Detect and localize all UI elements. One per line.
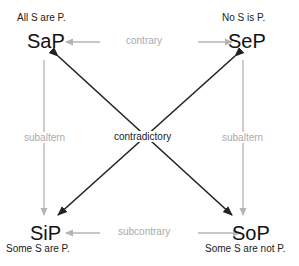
proposition-a-node: SaP — [27, 30, 65, 53]
proposition-a-description: All S are P. — [17, 12, 66, 23]
subaltern-label-left: subaltern — [22, 132, 67, 143]
proposition-e-description: No S is P. — [222, 12, 265, 23]
subcontrary-label: subcontrary — [116, 226, 172, 237]
contradictory-label: contradictory — [112, 131, 173, 142]
proposition-e-node: SeP — [228, 30, 266, 53]
proposition-o-description: Some S are not P. — [205, 243, 285, 254]
proposition-i-description: Some S are P. — [6, 243, 70, 254]
contrary-label: contrary — [124, 35, 164, 46]
proposition-o-node: SoP — [232, 222, 270, 245]
subaltern-label-right: subaltern — [220, 132, 265, 143]
proposition-i-node: SiP — [30, 222, 61, 245]
